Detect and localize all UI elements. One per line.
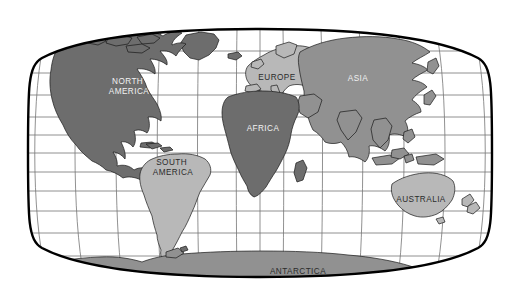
label-antarctica: ANTARCTICA — [270, 267, 326, 276]
label-asia: ASIA — [348, 74, 369, 83]
label-australia: AUSTRALIA — [396, 195, 446, 204]
label-africa: AFRICA — [247, 124, 280, 133]
world-map-svg: NORTH AMERICA SOUTH AMERICA EUROPE AFRIC… — [0, 0, 516, 307]
label-south-america: SOUTH AMERICA — [153, 158, 194, 177]
label-europe: EUROPE — [258, 73, 295, 82]
world-map-image: NORTH AMERICA SOUTH AMERICA EUROPE AFRIC… — [0, 0, 516, 307]
label-north-america: NORTH AMERICA — [109, 77, 150, 96]
